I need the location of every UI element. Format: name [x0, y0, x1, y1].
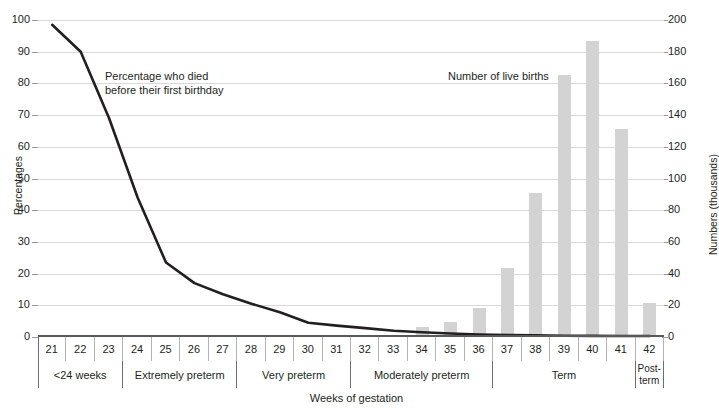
- week-cell-26[interactable]: 26: [180, 337, 208, 361]
- group-cell-2[interactable]: Very preterm: [237, 361, 351, 388]
- y-tick-right: 140: [668, 108, 702, 120]
- week-cell-24[interactable]: 24: [123, 337, 151, 361]
- week-cell-40[interactable]: 40: [579, 337, 607, 361]
- y-tick-left: 70: [0, 108, 30, 120]
- week-cell-31[interactable]: 31: [323, 337, 351, 361]
- y-tick-left: 90: [0, 45, 30, 57]
- y-tick-left: 10: [0, 298, 30, 310]
- y-tick-left: 30: [0, 235, 30, 247]
- y-tick-left: 0: [0, 330, 30, 342]
- y-tick-right: 20: [668, 298, 702, 310]
- week-cell-29[interactable]: 29: [266, 337, 294, 361]
- y-axis-right-title: Numbers (thousands): [707, 154, 719, 255]
- plot-area: [38, 20, 664, 337]
- week-cell-42[interactable]: 42: [636, 337, 664, 361]
- group-cell-0[interactable]: <24 weeks: [38, 361, 123, 388]
- line-annotation: Percentage who died before their first b…: [105, 69, 224, 97]
- week-cell-37[interactable]: 37: [493, 337, 521, 361]
- week-cell-28[interactable]: 28: [237, 337, 265, 361]
- group-cell-5[interactable]: Post- term: [636, 361, 664, 388]
- y-tick-right: 60: [668, 235, 702, 247]
- week-cell-32[interactable]: 32: [351, 337, 379, 361]
- week-cell-39[interactable]: 39: [550, 337, 578, 361]
- y-tick-right: 160: [668, 76, 702, 88]
- y-tick-left: 20: [0, 267, 30, 279]
- week-cell-30[interactable]: 30: [294, 337, 322, 361]
- y-axis-left-title: Percentages: [12, 156, 24, 215]
- week-cell-22[interactable]: 22: [66, 337, 94, 361]
- y-tick-right: 100: [668, 172, 702, 184]
- y-tick-right: 200: [668, 13, 702, 25]
- group-cell-1[interactable]: Extremely preterm: [123, 361, 237, 388]
- x-axis-title: Weeks of gestation: [0, 392, 713, 404]
- week-cell-27[interactable]: 27: [209, 337, 237, 361]
- week-cell-38[interactable]: 38: [522, 337, 550, 361]
- group-cell-4[interactable]: Term: [493, 361, 635, 388]
- y-tick-left: 80: [0, 76, 30, 88]
- y-tick-right: 80: [668, 203, 702, 215]
- week-cell-36[interactable]: 36: [465, 337, 493, 361]
- y-tick-right: 40: [668, 267, 702, 279]
- week-cell-41[interactable]: 41: [607, 337, 635, 361]
- week-cell-21[interactable]: 21: [38, 337, 66, 361]
- y-tick-left: 60: [0, 140, 30, 152]
- line-series: [38, 20, 664, 337]
- y-tick-right: 120: [668, 140, 702, 152]
- bar-annotation: Number of live births: [448, 69, 549, 83]
- week-cell-35[interactable]: 35: [436, 337, 464, 361]
- week-cell-23[interactable]: 23: [95, 337, 123, 361]
- x-axis-table: 2122232425262728293031323334353637383940…: [38, 337, 664, 388]
- y-tick-right: 180: [668, 45, 702, 57]
- y-tick-right: 0: [668, 330, 702, 342]
- y-tick-left: 100: [0, 13, 30, 25]
- week-cell-25[interactable]: 25: [152, 337, 180, 361]
- week-cell-33[interactable]: 33: [379, 337, 407, 361]
- group-cell-3[interactable]: Moderately preterm: [351, 361, 493, 388]
- week-cell-34[interactable]: 34: [408, 337, 436, 361]
